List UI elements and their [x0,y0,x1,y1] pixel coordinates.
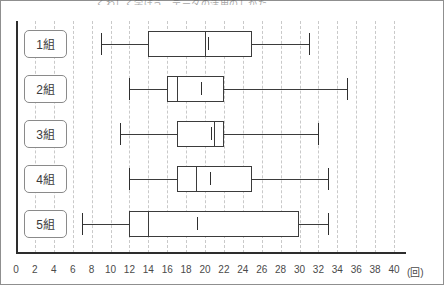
x-tick-label-28: 28 [275,264,286,275]
x-tick-label-10: 10 [105,264,116,275]
median-line-3 [214,121,215,147]
x-tick-label-38: 38 [370,264,381,275]
mean-marker-4 [210,172,211,185]
group-label-3: 3組 [24,120,67,148]
x-tick-label-16: 16 [162,264,173,275]
box-4 [177,166,253,192]
x-tick-label-30: 30 [294,264,305,275]
mean-marker-5 [197,217,198,230]
median-line-1 [205,31,206,57]
whisker-cap-max-5 [328,213,329,235]
x-tick-label-2: 2 [32,264,38,275]
box-3 [177,121,224,147]
x-tick-label-14: 14 [143,264,154,275]
box-1 [148,31,252,57]
group-label-5: 5組 [24,210,67,238]
x-tick-label-22: 22 [218,264,229,275]
mean-marker-2 [201,82,202,95]
whisker-cap-min-2 [129,78,130,100]
x-tick-label-12: 12 [124,264,135,275]
group-label-1: 1組 [24,30,67,58]
x-axis-unit-label: (回) [407,264,424,279]
x-tick-label-8: 8 [89,264,95,275]
whisker-cap-min-1 [101,33,102,55]
whisker-cap-max-4 [328,168,329,190]
chart-frame: くわしく学ぼう データの活用のしかた 1組2組3組4組5組 0246810121… [0,0,444,285]
median-line-5 [148,211,149,237]
x-tick-label-32: 32 [313,264,324,275]
x-tick-label-24: 24 [237,264,248,275]
group-label-4: 4組 [24,165,67,193]
x-tick-label-18: 18 [181,264,192,275]
box-5 [129,211,299,237]
whisker-cap-max-1 [309,33,310,55]
whisker-cap-max-2 [347,78,348,100]
x-tick-label-40: 40 [388,264,399,275]
x-tick-label-26: 26 [256,264,267,275]
median-line-2 [177,76,178,102]
x-tick-label-4: 4 [51,264,57,275]
x-tick-label-6: 6 [70,264,76,275]
boxplot-chart-area: 1組2組3組4組5組 02468101214161820222426283032… [16,11,416,251]
whisker-cap-min-3 [120,123,121,145]
mean-marker-3 [211,127,212,140]
median-line-4 [196,166,197,192]
whisker-cap-min-5 [82,213,83,235]
x-tick-label-20: 20 [199,264,210,275]
whisker-cap-max-3 [318,123,319,145]
x-tick-label-34: 34 [332,264,343,275]
whisker-2 [129,89,346,90]
mean-marker-1 [208,37,209,50]
page-title: くわしく学ぼう データの活用のしかた [96,0,267,5]
group-label-2: 2組 [24,75,67,103]
whisker-cap-min-4 [129,168,130,190]
x-axis-line [16,252,406,254]
boxplot-series [16,11,416,251]
x-tick-label-0: 0 [13,264,19,275]
x-tick-label-36: 36 [351,264,362,275]
